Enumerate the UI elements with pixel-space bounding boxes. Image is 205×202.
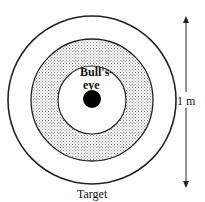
target-diagram — [0, 0, 205, 202]
bullseye-label-line1: Bull's- — [80, 66, 113, 78]
bullseye-label-line2: eye — [83, 79, 100, 91]
arrow-up-icon — [183, 16, 189, 23]
bullseye — [83, 90, 101, 108]
arrow-down-icon — [183, 181, 189, 188]
dimension-label: 1 m — [177, 94, 195, 108]
diagram-title: Target — [77, 188, 107, 200]
